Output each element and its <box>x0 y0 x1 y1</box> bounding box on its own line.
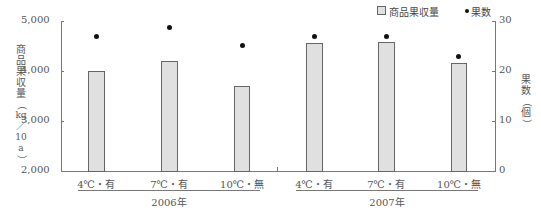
group-label-2007: 2007年 <box>347 194 427 209</box>
group-underline-2006 <box>78 190 260 191</box>
legend-bar-label: 商品果収量 <box>389 4 439 19</box>
bar-2007-4c <box>306 43 323 172</box>
y2-tick-label: 30 <box>499 14 512 25</box>
y-tick-label: 5,000 <box>21 14 50 25</box>
legend: 商品果収量 果数 <box>377 4 537 18</box>
x-category-label: 10℃・無 <box>212 176 272 191</box>
y2-tick <box>492 21 495 22</box>
x-category-label: 4℃・有 <box>284 176 344 191</box>
dot-2007-4c <box>312 34 317 39</box>
legend-dot-label: 果数 <box>471 4 491 19</box>
y-axis-right <box>495 21 496 172</box>
dot-2006-7c <box>167 25 172 30</box>
y-tick <box>61 121 64 122</box>
y-tick <box>61 71 64 72</box>
x-axis <box>61 171 496 172</box>
y2-axis-title: 果 数 （ 個 ） <box>520 74 532 129</box>
legend-bar-swatch <box>377 6 386 15</box>
y2-tick-label: 10 <box>499 114 512 125</box>
y-tick-label: 2,000 <box>21 164 50 175</box>
x-category-label: 7℃・有 <box>139 176 199 191</box>
dot-2006-4c <box>94 34 99 39</box>
x-category-label: 7℃・有 <box>356 176 416 191</box>
bar-2006-4c <box>88 71 105 172</box>
x-group-divider-tick <box>277 167 278 171</box>
bar-2006-10c <box>234 86 250 172</box>
y2-tick-label: 20 <box>499 64 512 75</box>
dot-2007-10c <box>456 54 461 59</box>
dot-2007-7c <box>384 34 389 39</box>
group-label-2006: 2006年 <box>129 194 209 209</box>
y-axis-title: 商 品 果 収 量 （ kg ／ 10 a ） <box>15 44 27 165</box>
bar-2007-7c <box>378 42 395 172</box>
x-category-label: 10℃・無 <box>429 176 489 191</box>
bar-2007-10c <box>451 63 467 172</box>
group-underline-2007 <box>296 190 478 191</box>
y-axis-left <box>61 21 62 172</box>
y-tick <box>61 21 64 22</box>
y2-tick <box>492 121 495 122</box>
dot-2006-10c <box>240 43 245 48</box>
x-category-label: 4℃・有 <box>66 176 126 191</box>
bar-2006-7c <box>161 61 178 172</box>
legend-dot-marker <box>465 9 469 13</box>
y2-tick-label: 0 <box>499 164 505 175</box>
y2-tick <box>492 71 495 72</box>
